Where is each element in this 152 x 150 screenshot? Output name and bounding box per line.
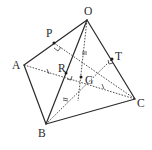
point-T <box>111 58 114 61</box>
point-P <box>53 42 56 45</box>
label-C: C <box>137 97 145 109</box>
tetrahedron-diagram: O P A R G T C B <box>0 0 152 150</box>
label-B: B <box>38 127 46 139</box>
segment-AC <box>24 65 135 99</box>
point-G <box>80 76 83 79</box>
label-T: T <box>115 50 122 62</box>
label-G: G <box>85 74 93 86</box>
label-P: P <box>46 27 52 39</box>
edge-AB <box>24 65 46 124</box>
label-O: O <box>84 5 92 17</box>
tick-marks <box>47 52 104 101</box>
edge-BC <box>46 99 135 124</box>
label-R: R <box>58 62 66 74</box>
segment-P-C <box>54 43 135 99</box>
label-A: A <box>12 59 21 71</box>
